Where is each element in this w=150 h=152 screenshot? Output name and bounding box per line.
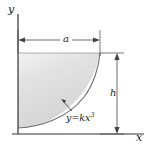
- dimension-label-h: h: [110, 86, 116, 100]
- arrowhead-a-right: [93, 37, 100, 42]
- y-axis-label: y: [8, 4, 14, 15]
- figure-canvas: [0, 0, 150, 152]
- dimension-label-a: a: [60, 34, 72, 44]
- curve-equation-label: y=kx3: [66, 112, 95, 123]
- arrowhead-h-bottom: [114, 127, 119, 134]
- x-axis-label: x: [136, 132, 142, 143]
- arrowhead-h-top: [114, 53, 119, 60]
- equation-exponent: 3: [90, 111, 94, 119]
- arrowhead-a-left: [18, 37, 25, 42]
